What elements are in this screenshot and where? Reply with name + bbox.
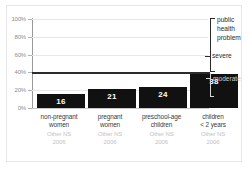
severity-bracket-public-health-problem (210, 18, 211, 72)
x-axis-baseline (32, 108, 209, 109)
category-label-preschool-age-children: preschool-age children Other NS 2006 (134, 113, 189, 146)
tick-60 (28, 55, 32, 56)
category-name-line2: women (33, 121, 85, 129)
bar-value-label: 24 (139, 90, 187, 99)
category-name-line2: women (84, 121, 136, 129)
bar-non-pregnant-women: 16 (37, 94, 85, 108)
plot-area: 100% 80% 60% 40% 20% 0% 16 21 24 38 (32, 19, 208, 108)
y-tick-label-100: 100% (11, 16, 26, 22)
chart-figure: 100% 80% 60% 40% 20% 0% 16 21 24 38 (0, 0, 249, 169)
category-name-line1: preschool-age (134, 113, 189, 121)
y-tick-label-0: 0% (18, 105, 26, 111)
bar-value-label: 21 (88, 92, 136, 101)
y-tick-label-40: 40% (15, 69, 26, 75)
bar-preschool-age-children: 24 (139, 87, 187, 108)
category-name-line1: non-pregnant (33, 113, 85, 121)
gridline-80 (32, 37, 208, 38)
severity-label-public-health-problem-line3: problem (217, 34, 241, 43)
category-source: Other NS (187, 131, 239, 139)
y-tick-label-80: 80% (15, 34, 26, 40)
severity-bracket-moderate-bottom-cap (210, 96, 214, 97)
tick-20 (28, 90, 32, 91)
severity-label-public-health-problem-line2: health (217, 25, 235, 34)
severity-tick-moderate (206, 78, 211, 79)
tick-80 (28, 37, 32, 38)
tick-100 (28, 19, 32, 20)
category-year: 2006 (134, 139, 189, 147)
severity-label-severe: severe (212, 52, 232, 61)
gridline-60 (32, 55, 208, 56)
category-name-line1: children (187, 113, 239, 121)
category-source: Other NS (84, 131, 136, 139)
bar-value-label: 16 (37, 97, 85, 106)
bar-pregnant-women: 21 (88, 89, 136, 108)
severity-label-moderate: moderate (213, 75, 241, 84)
category-name-line2: < 2 years (187, 121, 239, 129)
gridline-100 (32, 19, 208, 20)
y-tick-label-20: 20% (15, 87, 26, 93)
category-label-children-under-2-years: children < 2 years Other NS 2006 (187, 113, 239, 146)
category-source: Other NS (33, 131, 85, 139)
severity-bracket-moderate (210, 73, 211, 97)
category-name-line2: children (134, 121, 189, 129)
severity-bracket-top-cap (210, 18, 215, 19)
category-name-line1: pregnant (84, 113, 136, 121)
severity-tick-severe (205, 56, 210, 57)
y-tick-label-60: 60% (15, 52, 26, 58)
category-source: Other NS (134, 131, 189, 139)
category-label-pregnant-women: pregnant women Other NS 2006 (84, 113, 136, 146)
category-year: 2006 (33, 139, 85, 147)
threshold-line-40 (32, 72, 210, 74)
severity-label-public-health-problem-line1: public (217, 16, 234, 25)
category-year: 2006 (187, 139, 239, 147)
category-year: 2006 (84, 139, 136, 147)
category-label-non-pregnant-women: non-pregnant women Other NS 2006 (33, 113, 85, 146)
